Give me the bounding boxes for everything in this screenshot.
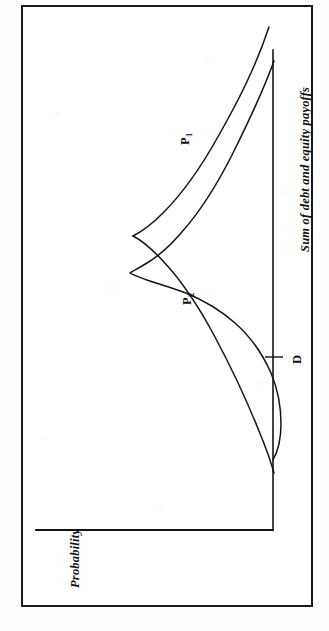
- plot-canvas: [23, 7, 311, 605]
- curve-label-p2: P2: [180, 293, 195, 305]
- page-frame: [21, 5, 313, 607]
- y-axis-label: Probability: [68, 529, 83, 588]
- curve-label-p1-subscript: 1: [184, 133, 194, 137]
- curve-label-p2-base: P: [180, 297, 194, 305]
- x-axis-label: Sum of debt and equity payoffs: [298, 87, 313, 252]
- figure-root: Sum of debt and equity payoffs Probabili…: [0, 0, 329, 631]
- curve-p1: [133, 27, 274, 473]
- curve-p2: [130, 61, 281, 460]
- curve-label-p1-base: P: [178, 137, 192, 145]
- tick-label-d: D: [290, 355, 305, 364]
- axis-lines: [36, 50, 273, 530]
- curve-label-p1: P1: [178, 133, 193, 145]
- curve-label-p2-subscript: 2: [186, 293, 196, 297]
